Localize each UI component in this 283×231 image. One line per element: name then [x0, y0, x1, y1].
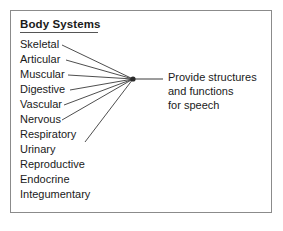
- list-item: Digestive: [20, 82, 130, 97]
- title-underline: [20, 32, 98, 33]
- list-item: Urinary: [20, 142, 130, 157]
- list-item: Muscular: [20, 67, 130, 82]
- body-systems-list: SkeletalArticularMuscularDigestiveVascul…: [20, 37, 130, 202]
- outcome-line: for speech: [168, 98, 268, 112]
- list-item: Skeletal: [20, 37, 130, 52]
- list-item: Nervous: [20, 112, 130, 127]
- outcome-text-block: Provide structuresand functionsfor speec…: [168, 70, 268, 112]
- list-item: Articular: [20, 52, 130, 67]
- list-item: Endocrine: [20, 172, 130, 187]
- list-item: Reproductive: [20, 157, 130, 172]
- list-item: Integumentary: [20, 187, 130, 202]
- list-item: Vascular: [20, 97, 130, 112]
- outcome-line: and functions: [168, 84, 268, 98]
- page-title: Body Systems: [20, 18, 100, 30]
- list-item: Respiratory: [20, 127, 130, 142]
- diagram-figure: Body Systems SkeletalArticularMuscularDi…: [0, 0, 283, 231]
- outcome-line: Provide structures: [168, 70, 268, 84]
